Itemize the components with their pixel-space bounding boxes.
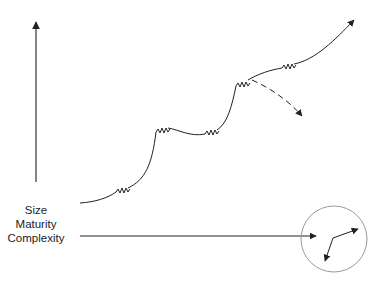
spring-icon bbox=[236, 82, 250, 87]
growth-diagram: Size Maturity Complexity bbox=[0, 0, 374, 282]
dashed-branch-arrow bbox=[252, 80, 302, 116]
inset-circle bbox=[301, 206, 367, 272]
spring-icon bbox=[156, 128, 170, 133]
axis-label: Size Maturity Complexity bbox=[4, 203, 68, 245]
spring-icon bbox=[282, 64, 296, 69]
spring-icon bbox=[205, 130, 219, 135]
axis-label-size: Size bbox=[4, 203, 68, 217]
bent-arrow-icon bbox=[325, 229, 358, 261]
spring-icon bbox=[116, 188, 130, 193]
axis-label-maturity: Maturity bbox=[4, 217, 68, 231]
growth-curve bbox=[80, 20, 354, 203]
axis-label-complexity: Complexity bbox=[4, 231, 68, 245]
